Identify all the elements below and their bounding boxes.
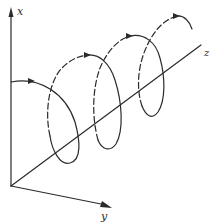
helix-turn-1-back	[48, 55, 88, 136]
helix-arrow-1-icon	[28, 78, 35, 84]
helix-arrow-3-icon	[126, 33, 133, 39]
helix-turn-1-front	[11, 81, 79, 164]
x-axis-label: x	[17, 6, 23, 17]
y-axis-label: y	[101, 211, 107, 222]
x-axis-arrowhead-icon	[9, 7, 14, 17]
helix-diagram: x z y	[0, 0, 214, 224]
helix-end-segment	[177, 16, 192, 29]
y-axis-arrowhead-icon	[100, 201, 112, 208]
helix-turn-2-back	[94, 36, 130, 140]
helix-turn-3-back	[139, 16, 177, 106]
helix-arrow-4-icon	[173, 13, 180, 19]
helix-arrow-2-icon	[84, 52, 91, 58]
helix-diagram-canvas	[0, 0, 214, 224]
y-axis	[11, 186, 106, 205]
z-axis	[11, 45, 201, 186]
helix-turn-2-front	[88, 55, 121, 149]
z-axis-label: z	[204, 48, 209, 58]
